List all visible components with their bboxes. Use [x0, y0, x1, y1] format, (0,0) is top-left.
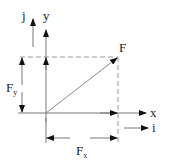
force-components-diagram: j y F Fy x i Fx: [0, 0, 173, 163]
label-j: j: [21, 8, 26, 23]
label-F: F: [119, 40, 126, 55]
label-x: x: [150, 105, 157, 120]
label-Fx: Fx: [76, 143, 87, 160]
label-i: i: [152, 120, 156, 135]
force-vector: [46, 58, 117, 113]
diagram-canvas: j y F Fy x i Fx: [0, 0, 173, 163]
label-y: y: [43, 8, 50, 23]
label-Fy: Fy: [6, 80, 17, 97]
